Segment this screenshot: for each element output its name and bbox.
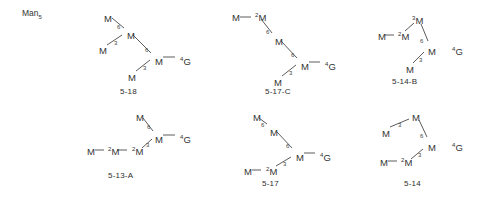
corner-label-text: Man	[22, 8, 39, 18]
residue-arm-terminal: M	[382, 129, 390, 139]
residue-upper-arm-terminal: M	[104, 14, 112, 24]
residue-branch-core: M	[275, 37, 283, 47]
glycosidic-bond	[277, 132, 292, 148]
residue-label: G	[184, 134, 192, 145]
residue-label: M	[378, 31, 386, 42]
residue-upper-arm-terminal: M	[136, 113, 144, 123]
residue-label: M	[244, 166, 252, 177]
residue-label: M	[301, 61, 309, 72]
linkage-number: 3	[398, 122, 401, 128]
residue-label: M	[128, 72, 136, 83]
structure-caption: 5-14	[404, 180, 421, 188]
linkage-number: 3	[146, 142, 149, 148]
linkage-number: 6	[291, 52, 294, 58]
residue-chain-mid: 2M	[108, 147, 120, 157]
residue-label: M	[270, 166, 278, 177]
residue-reducing-end: 4G	[180, 135, 191, 145]
residue-label: M	[155, 134, 163, 145]
residue-arm-linked: 2M	[255, 13, 267, 23]
residue-branch-core: M	[127, 31, 135, 41]
residue-reducing-end: 4G	[320, 153, 331, 163]
residue-core-residue: M	[428, 47, 436, 57]
residue-core-lower-terminal: M	[406, 65, 414, 75]
residue-label: M	[402, 31, 410, 42]
residue-label: M	[382, 128, 390, 139]
residue-reducing-end: 4G	[452, 143, 463, 153]
structure-caption: 5-18	[120, 88, 137, 96]
residue-chain-terminal: M	[380, 158, 388, 168]
residue-chain-linked: 2M	[401, 158, 413, 168]
residue-label: G	[329, 61, 337, 72]
linkage-number: 6	[145, 47, 148, 53]
residue-chain-linked: 2M	[266, 167, 278, 177]
residue-label: M	[155, 56, 163, 67]
residue-label: G	[184, 56, 192, 67]
residue-reducing-end: 4G	[325, 62, 336, 72]
residue-label: M	[412, 112, 420, 123]
residue-label: M	[405, 157, 413, 168]
residue-label: M	[296, 152, 304, 163]
linkage-number: 6	[261, 122, 264, 128]
residue-label: G	[456, 142, 464, 153]
residue-branch-core: M	[270, 128, 278, 138]
glycosidic-bond	[281, 41, 297, 58]
residue-core-residue: M	[155, 135, 163, 145]
residue-label: M	[253, 112, 261, 123]
residue-label: M	[270, 127, 278, 138]
residue-label: M	[416, 15, 424, 26]
residue-core-lower-terminal: M	[128, 73, 136, 83]
linkage-number: 3	[283, 161, 286, 167]
structure-caption: 5-13-A	[108, 172, 133, 180]
residue-label: M	[136, 146, 144, 157]
residue-label: M	[232, 12, 240, 23]
residue-core-residue: M	[296, 153, 304, 163]
structure-caption: 5-14-B	[392, 78, 417, 86]
residue-label: M	[428, 142, 436, 153]
residue-label: M	[428, 46, 436, 57]
linkage-number: 3	[289, 70, 292, 76]
residue-label: M	[406, 64, 414, 75]
residue-arm-terminal: M	[378, 32, 386, 42]
linkage-number: 3	[143, 65, 146, 71]
residue-core-residue: M	[428, 143, 436, 153]
residue-label: M	[112, 146, 120, 157]
linkage-number: 6	[147, 124, 150, 130]
residue-upper-branch: M	[412, 113, 420, 123]
residue-core-residue: M	[155, 57, 163, 67]
residue-upper-branch: 3M	[412, 16, 424, 26]
figure-corner-label: Man5	[22, 9, 42, 18]
residue-upper-arm-terminal: M	[253, 113, 261, 123]
residue-arm-terminal: M	[232, 13, 240, 23]
linkage-number: 6	[420, 133, 423, 139]
corner-label-subscript: 5	[39, 14, 42, 20]
residue-label: M	[275, 36, 283, 47]
residue-core-residue: M	[301, 62, 309, 72]
structure-caption: 5-17-C	[265, 88, 291, 96]
linkage-number: 6	[420, 38, 423, 44]
residue-arm-linked: 2M	[398, 32, 410, 42]
residue-label: M	[127, 30, 135, 41]
residue-chain-inner: 2M	[132, 147, 144, 157]
residue-label: M	[104, 13, 112, 24]
linkage-number: 6	[286, 143, 289, 149]
linkage-number: 6	[117, 24, 120, 30]
residue-label: M	[380, 157, 388, 168]
linkage-number: 3	[114, 40, 117, 46]
linkage-number: 6	[266, 29, 269, 35]
residue-label: G	[456, 46, 464, 57]
residue-chain-terminal: M	[244, 167, 252, 177]
residue-lower-arm-terminal: M	[99, 46, 107, 56]
residue-chain-terminal: M	[87, 147, 95, 157]
residue-label: M	[99, 45, 107, 56]
linkage-number: 3	[419, 57, 422, 63]
residue-reducing-end: 4G	[452, 47, 463, 57]
structure-caption: 5-17	[262, 180, 279, 188]
residue-label: M	[136, 112, 144, 123]
glycan-structures-figure: Man5 MMMMM4G63635-18M2MMMM4G6635-17-C3MM…	[0, 0, 483, 197]
residue-label: M	[87, 146, 95, 157]
residue-reducing-end: 4G	[180, 57, 191, 67]
residue-label: M	[259, 12, 267, 23]
residue-label: G	[324, 152, 332, 163]
linkage-number: 3	[418, 152, 421, 158]
